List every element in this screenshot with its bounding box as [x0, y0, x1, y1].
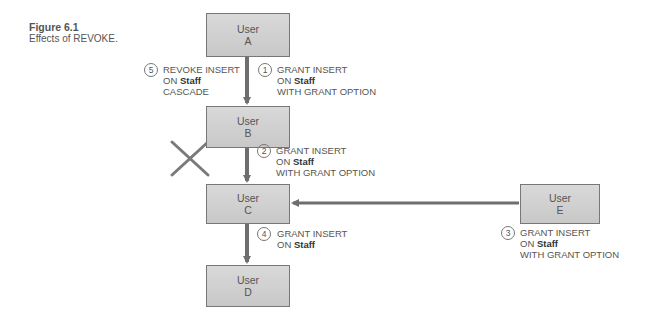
- user-label: User: [237, 192, 259, 204]
- step-5-number-icon: 5: [144, 63, 158, 77]
- user-id: C: [244, 204, 252, 216]
- step-line: ON Staff: [520, 238, 619, 249]
- revoked-cross-icon: [172, 142, 208, 175]
- user-label: User: [237, 23, 259, 35]
- step-line: WITH GRANT OPTION: [520, 249, 619, 260]
- step-line: GRANT INSERT: [520, 227, 619, 238]
- step-line: ON Staff: [277, 239, 347, 250]
- step-line: ON Staff: [276, 156, 375, 167]
- user-a-box: User A: [206, 13, 290, 57]
- user-c-box: User C: [206, 184, 290, 224]
- user-id: B: [244, 127, 251, 139]
- user-id: D: [244, 286, 252, 298]
- user-id: A: [244, 35, 251, 47]
- step-5-label: REVOKE INSERT ON Staff CASCADE: [163, 64, 240, 97]
- step-line: ON Staff: [163, 75, 240, 86]
- user-d-box: User D: [206, 265, 290, 307]
- step-1-label: GRANT INSERT ON Staff WITH GRANT OPTION: [277, 64, 376, 97]
- user-b-box: User B: [206, 106, 290, 148]
- user-e-box: User E: [520, 184, 600, 224]
- step-2-label: GRANT INSERT ON Staff WITH GRANT OPTION: [276, 145, 375, 178]
- step-line: CASCADE: [163, 86, 240, 97]
- step-4-label: GRANT INSERT ON Staff: [277, 228, 347, 250]
- user-label: User: [549, 192, 571, 204]
- step-line: GRANT INSERT: [277, 228, 347, 239]
- step-line: REVOKE INSERT: [163, 64, 240, 75]
- step-3-label: GRANT INSERT ON Staff WITH GRANT OPTION: [520, 227, 619, 260]
- step-line: GRANT INSERT: [277, 64, 376, 75]
- step-3-number-icon: 3: [501, 226, 515, 240]
- step-line: ON Staff: [277, 75, 376, 86]
- step-line: WITH GRANT OPTION: [277, 86, 376, 97]
- user-label: User: [237, 274, 259, 286]
- step-line: WITH GRANT OPTION: [276, 167, 375, 178]
- step-line: GRANT INSERT: [276, 145, 375, 156]
- step-1-number-icon: 1: [258, 63, 272, 77]
- step-4-number-icon: 4: [257, 227, 271, 241]
- step-2-number-icon: 2: [257, 144, 271, 158]
- user-id: E: [556, 204, 563, 216]
- user-label: User: [237, 115, 259, 127]
